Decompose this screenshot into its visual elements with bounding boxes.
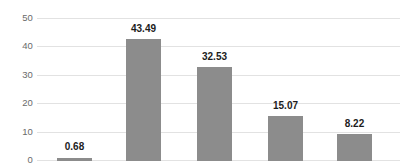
y-tick-label: 50: [3, 13, 33, 23]
bar-3[interactable]: [197, 67, 232, 161]
y-tick-label: 10: [3, 127, 33, 137]
bar-5[interactable]: [337, 134, 372, 161]
bar-1[interactable]: [57, 158, 92, 161]
bar-label-1: 0.68: [57, 142, 92, 152]
bar-4[interactable]: [268, 116, 303, 161]
bar-2[interactable]: [126, 39, 161, 161]
plot-area: 0.68 43.49 32.53 15.07 8.22: [37, 0, 400, 163]
bar-label-3: 32.53: [192, 52, 237, 62]
bar-label-4: 15.07: [263, 101, 308, 111]
y-tick-label: 20: [3, 98, 33, 108]
gridline-40: [37, 46, 400, 47]
y-tick-label: 0: [3, 155, 33, 163]
y-axis: 50 40 30 20 10 0: [0, 0, 33, 163]
bar-label-2: 43.49: [121, 24, 166, 34]
bar-chart: 50 40 30 20 10 0 0.68 43.49 32.53 15.07 …: [0, 0, 400, 163]
bar-label-5: 8.22: [332, 119, 377, 129]
y-tick-label: 30: [3, 70, 33, 80]
gridline-50: [37, 18, 400, 19]
y-tick-label: 40: [3, 41, 33, 51]
